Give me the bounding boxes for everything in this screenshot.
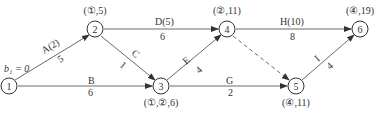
edge-3-4: E 4 — [167, 35, 221, 80]
edge-5-6-duration: 4 — [324, 60, 335, 72]
node-4: 4 (②,11) — [213, 5, 241, 37]
edge-1-3-duration: 6 — [88, 87, 93, 98]
edge-3-5-duration: 2 — [228, 87, 233, 98]
edge-3-5-name: G — [226, 75, 233, 86]
node-6-annotation: (④,19) — [346, 5, 374, 17]
network-diagram: A(2) 5 B 6 C 1 D(5) 6 E 4 G 2 H(10) 8 I … — [0, 0, 386, 113]
node-2-label: 2 — [93, 24, 98, 35]
node-1: 1 — [1, 78, 17, 94]
edge-4-6-name: H(10) — [280, 16, 304, 28]
start-annotation: b₁ = 0 — [4, 63, 29, 74]
edge-4-5-dummy — [233, 36, 289, 80]
node-5-label: 5 — [294, 81, 299, 92]
edge-1-2-duration: 5 — [55, 53, 65, 65]
node-3: 3 (①,②,6) — [144, 78, 179, 109]
node-6-label: 6 — [358, 24, 363, 35]
edge-4-6-duration: 8 — [290, 31, 295, 42]
edge-2-3-name: C — [130, 47, 142, 60]
node-3-annotation: (①,②,6) — [144, 97, 179, 109]
edge-4-6: H(10) 8 — [236, 16, 351, 42]
node-2-annotation: (①,5) — [83, 5, 106, 17]
edge-1-3-name: B — [88, 75, 95, 86]
node-4-annotation: (②,11) — [213, 5, 241, 17]
edge-2-3: C 1 — [101, 36, 155, 80]
edge-3-4-duration: 4 — [193, 64, 204, 76]
edge-2-4-duration: 6 — [160, 31, 165, 42]
edge-2-4-name: D(5) — [155, 16, 174, 28]
node-6: 6 (④,19) — [346, 5, 374, 37]
edge-3-5: G 2 — [170, 75, 287, 98]
node-1-label: 1 — [7, 81, 12, 92]
edge-5-6: I 4 — [302, 35, 354, 80]
edge-5-6-name: I — [312, 53, 322, 63]
edge-1-3: B 6 — [18, 75, 152, 98]
node-2: 2 (①,5) — [83, 5, 106, 37]
node-4-label: 4 — [225, 24, 230, 35]
node-3-label: 3 — [159, 81, 164, 92]
edge-2-4: D(5) 6 — [104, 16, 218, 42]
edge-2-3-duration: 1 — [118, 59, 129, 71]
node-5-annotation: (④,11) — [282, 97, 310, 109]
node-5: 5 (④,11) — [282, 78, 310, 109]
